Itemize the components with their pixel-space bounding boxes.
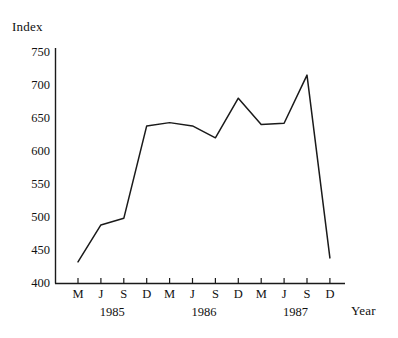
x-axis-group-label: 1986 bbox=[191, 306, 216, 319]
x-axis-group-label: 1985 bbox=[100, 306, 125, 319]
x-axis-group-label: 1987 bbox=[283, 306, 308, 319]
x-axis-group-labels: 198519861987 bbox=[0, 0, 398, 338]
line-chart: Index Year 750700650600550500450400 MJSD… bbox=[0, 0, 398, 338]
